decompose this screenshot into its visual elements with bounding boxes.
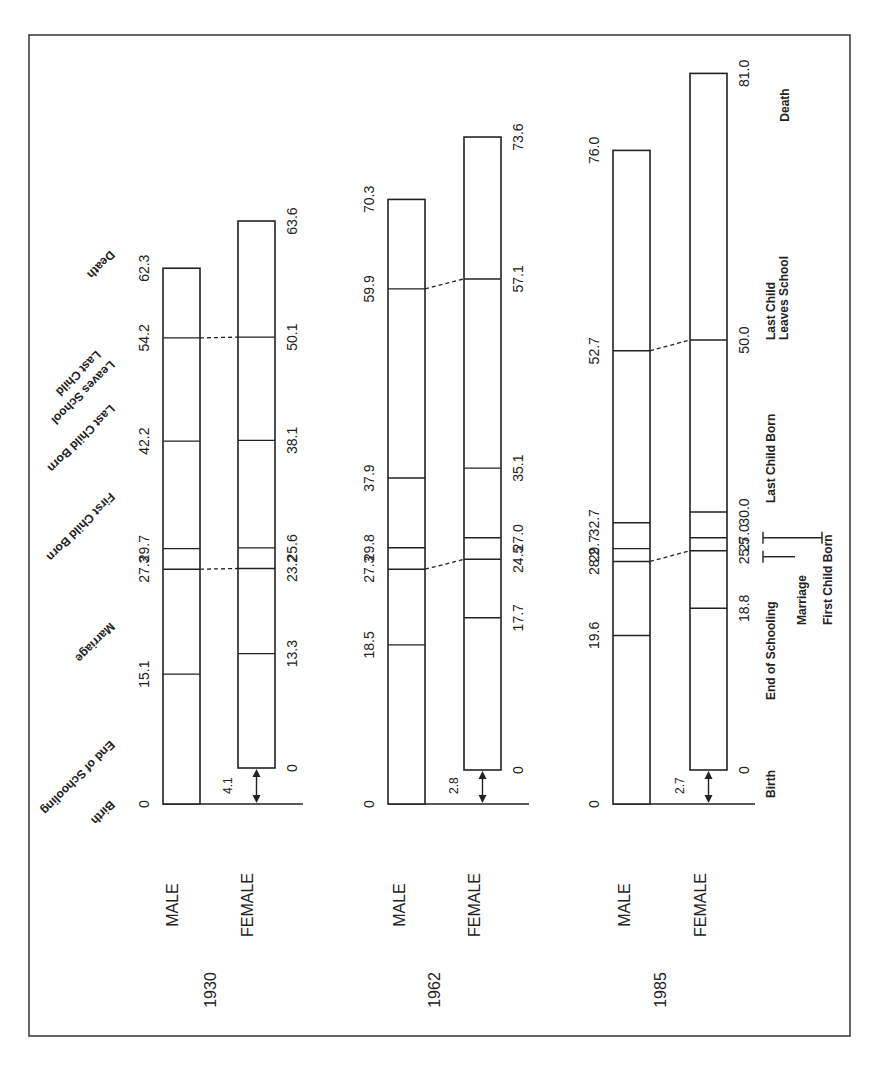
age-gap-label: 2.7 [673, 777, 687, 794]
life-cycle-chart: 4.1015.127.329.742.254.262.3013.323.225.… [0, 0, 878, 1067]
male-value-label: 0 [586, 800, 602, 808]
female-bar [464, 137, 501, 770]
stage-connector-dashed [425, 279, 464, 289]
male-value-label: 29.7 [586, 535, 602, 562]
year-label: 1930 [202, 972, 219, 1008]
female-bar [238, 221, 275, 768]
stage-label: Birth [88, 798, 118, 828]
female-value-label: 50.1 [284, 323, 300, 350]
female-value-label: 50.0 [736, 326, 752, 353]
group-1985 [613, 73, 755, 804]
male-series-label: MALE [391, 883, 408, 927]
male-value-label: 29.7 [136, 535, 152, 562]
age-gap-label: 4.1 [221, 777, 235, 794]
stage-connector-dashed [200, 337, 238, 338]
male-bar [388, 199, 425, 804]
stage-label-last-leaves-2: Leaves School [777, 256, 791, 340]
stage-connector-dashed [200, 568, 238, 569]
stage-label-last-child: Last Child Born [764, 414, 778, 503]
male-series-label: MALE [164, 883, 181, 927]
male-value-label: 18.5 [361, 631, 377, 658]
female-value-label: 63.6 [284, 207, 300, 234]
female-value-label: 13.3 [284, 640, 300, 667]
female-value-label: 73.6 [510, 123, 526, 150]
female-value-label: 0 [284, 764, 300, 772]
male-value-label: 19.6 [586, 622, 602, 649]
arrow-down-icon [479, 795, 487, 803]
male-value-label: 62.3 [136, 254, 152, 281]
stage-label-death: Death [778, 88, 792, 121]
female-series-label: FEMALE [466, 873, 483, 937]
female-value-label: 18.8 [736, 594, 752, 621]
stage-connector-dashed [425, 559, 464, 569]
female-value-label: 17.7 [510, 604, 526, 631]
male-bar [163, 268, 200, 804]
stage-label-birth: Birth [764, 770, 778, 798]
stage-label-last-leaves-1: Last Child [764, 282, 778, 340]
female-value-label: 57.1 [510, 265, 526, 292]
female-series-label: FEMALE [239, 873, 256, 937]
male-value-label: 76.0 [586, 137, 602, 164]
male-bar [613, 150, 650, 804]
arrow-down-icon [253, 795, 261, 803]
male-value-label: 42.2 [136, 427, 152, 454]
group-1962 [388, 137, 529, 804]
bars-layer [163, 73, 822, 804]
female-series-label: FEMALE [692, 873, 709, 937]
group-1930 [163, 221, 303, 804]
age-gap-label: 2.8 [447, 777, 461, 794]
male-value-label: 29.8 [361, 534, 377, 561]
stage-label-marriage: Marriage [795, 575, 809, 625]
arrow-up-icon [479, 771, 487, 779]
stage-label-first-child: First Child Born [821, 534, 835, 625]
arrow-up-icon [705, 771, 713, 779]
female-value-label: 27.0 [736, 524, 752, 551]
male-value-label: 37.9 [361, 464, 377, 491]
male-value-label: 32.7 [586, 509, 602, 536]
stage-label-end-schooling: End of Schooling [764, 601, 778, 700]
female-value-label: 38.1 [284, 427, 300, 454]
arrow-down-icon [705, 795, 713, 803]
male-value-label: 54.2 [136, 324, 152, 351]
female-value-label: 27.0 [510, 524, 526, 551]
female-bar [690, 73, 727, 770]
male-value-label: 70.3 [361, 186, 377, 213]
male-series-label: MALE [616, 883, 633, 927]
female-value-label: 0 [736, 766, 752, 774]
male-value-label: 0 [361, 800, 377, 808]
year-label: 1985 [652, 972, 669, 1008]
stage-label: First Child Born [44, 490, 118, 564]
stage-connector-dashed [650, 551, 690, 562]
stage-label: Marriage [72, 620, 118, 666]
female-value-label: 25.6 [284, 534, 300, 561]
stage-connector-dashed [650, 340, 690, 351]
female-value-label: 30.0 [736, 498, 752, 525]
female-value-label: 35.1 [510, 454, 526, 481]
stage-label: Death [84, 248, 117, 281]
male-value-label: 59.9 [361, 275, 377, 302]
male-value-label: 0 [136, 800, 152, 808]
arrow-up-icon [253, 769, 261, 777]
year-label: 1962 [426, 972, 443, 1008]
male-value-label: 52.7 [586, 337, 602, 364]
female-value-label: 81.0 [736, 60, 752, 87]
male-value-label: 15.1 [136, 660, 152, 687]
female-value-label: 0 [510, 766, 526, 774]
